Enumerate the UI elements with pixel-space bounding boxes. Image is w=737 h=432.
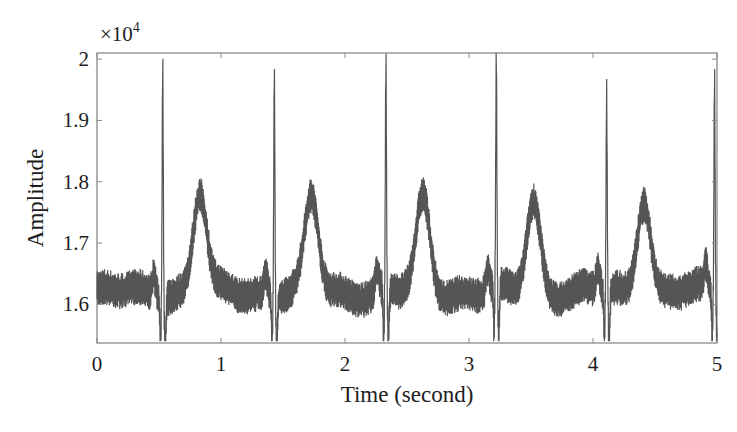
y-tick-label: 1.9 bbox=[63, 108, 89, 132]
y-axis-ticks: 1.61.71.81.92 bbox=[63, 47, 717, 316]
ecg-chart: 012345 1.61.71.81.92 ×104 Time (second) … bbox=[0, 0, 737, 432]
x-tick-label: 1 bbox=[216, 352, 227, 376]
x-tick-label: 2 bbox=[340, 352, 351, 376]
y-tick-label: 1.8 bbox=[63, 170, 89, 194]
y-tick-label: 2 bbox=[79, 47, 90, 71]
x-tick-label: 5 bbox=[712, 352, 723, 376]
y-axis-title: Amplitude bbox=[23, 149, 48, 247]
plot-area: 012345 1.61.71.81.92 bbox=[63, 47, 723, 376]
x-tick-label: 3 bbox=[464, 352, 475, 376]
ecg-signal-line bbox=[97, 53, 717, 341]
y-multiplier: ×104 bbox=[100, 20, 140, 46]
y-multiplier-base: ×10 bbox=[100, 22, 133, 46]
x-axis-ticks: 012345 bbox=[92, 53, 723, 376]
x-tick-label: 0 bbox=[92, 352, 103, 376]
x-axis-title: Time (second) bbox=[341, 382, 474, 407]
y-tick-label: 1.7 bbox=[63, 231, 89, 255]
y-multiplier-exponent: 4 bbox=[133, 20, 140, 35]
y-tick-label: 1.6 bbox=[63, 292, 89, 316]
x-tick-label: 4 bbox=[588, 352, 599, 376]
